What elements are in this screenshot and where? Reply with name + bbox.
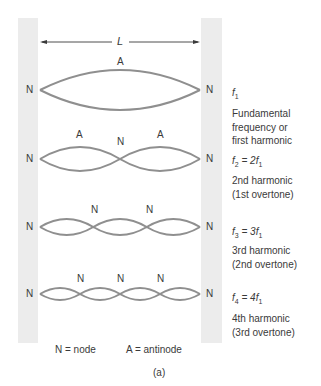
node-label: N xyxy=(206,289,213,299)
node-label: N xyxy=(26,154,33,164)
node-label: N xyxy=(157,274,164,284)
frequency-f4: f4 = 4f1 xyxy=(232,292,262,305)
mode-1-string xyxy=(40,70,200,110)
node-label: N xyxy=(77,274,84,284)
antinode-label: A xyxy=(157,130,164,140)
node-label: N xyxy=(206,85,213,95)
node-label: N xyxy=(26,85,33,95)
node-label: N xyxy=(206,154,213,164)
mode-1-description: Fundamental frequency or first harmonic xyxy=(232,107,292,148)
mode-4-string xyxy=(40,288,200,300)
mode-4-description: 4th harmonic (3rd overtone) xyxy=(232,312,295,339)
frequency-f2: f2 = 2f1 xyxy=(232,155,262,168)
frequency-f3: f3 = 3f1 xyxy=(232,226,262,239)
length-label: L xyxy=(117,36,123,47)
node-label: N xyxy=(91,205,98,215)
mode-3-string xyxy=(40,219,200,235)
antinode-label: A xyxy=(76,130,83,140)
mode-2-description: 2nd harmonic (1st overtone) xyxy=(232,174,294,201)
node-label: N xyxy=(206,222,213,232)
figure-caption: (a) xyxy=(153,368,165,378)
node-label: N xyxy=(117,274,124,284)
frequency-f1: f1 xyxy=(232,87,239,100)
node-label: N xyxy=(117,137,124,147)
mode-3-description: 3rd harmonic (2nd overtone) xyxy=(232,244,297,271)
legend-antinode: A = antinode xyxy=(126,345,182,355)
node-label: N xyxy=(26,289,33,299)
antinode-label: A xyxy=(117,57,124,67)
node-label: N xyxy=(146,205,153,215)
legend-node: N = node xyxy=(55,345,96,355)
node-label: N xyxy=(26,222,33,232)
mode-2-string xyxy=(40,147,200,171)
